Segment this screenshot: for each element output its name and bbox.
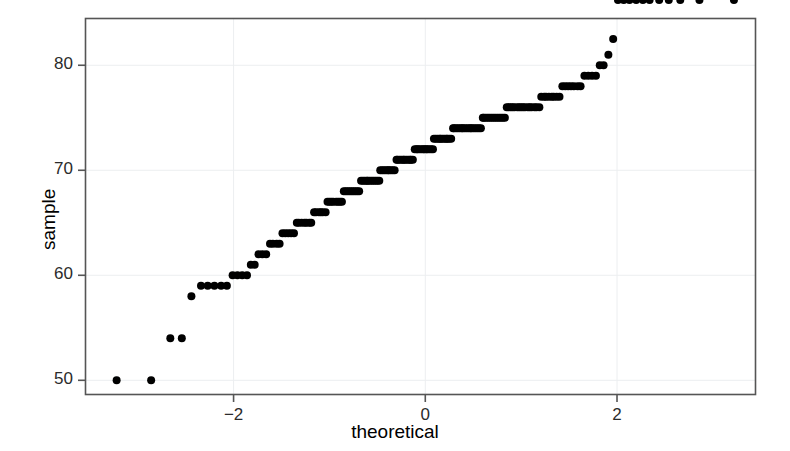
plot-canvas xyxy=(0,0,790,451)
data-point xyxy=(409,156,417,164)
data-point xyxy=(375,177,383,185)
data-point xyxy=(243,271,251,279)
data-point xyxy=(535,103,543,111)
data-point xyxy=(355,187,363,195)
data-point xyxy=(338,198,346,206)
axis-ticks xyxy=(78,65,617,402)
y-tick-label: 50 xyxy=(27,369,73,389)
data-point xyxy=(501,114,509,122)
x-tick-label: 0 xyxy=(395,405,455,425)
data-point xyxy=(187,292,195,300)
data-point xyxy=(251,261,259,269)
data-point xyxy=(555,93,563,101)
data-point xyxy=(676,0,684,4)
data-point xyxy=(276,240,284,248)
plot-border xyxy=(86,19,756,395)
data-point xyxy=(307,219,315,227)
data-point xyxy=(604,51,612,59)
data-point xyxy=(447,135,455,143)
data-point xyxy=(665,0,673,4)
data-point xyxy=(592,72,600,80)
data-point xyxy=(113,376,121,384)
data-point xyxy=(290,229,298,237)
y-tick-label: 70 xyxy=(27,159,73,179)
plot-frame xyxy=(86,19,756,395)
data-point xyxy=(646,0,654,4)
data-point xyxy=(429,145,437,153)
data-point xyxy=(730,0,738,4)
data-point xyxy=(477,124,485,132)
data-point xyxy=(655,0,663,4)
y-tick-label: 80 xyxy=(27,54,73,74)
data-point xyxy=(695,0,703,4)
data-point xyxy=(178,334,186,342)
data-point xyxy=(166,334,174,342)
data-point xyxy=(600,61,608,69)
data-point xyxy=(223,282,231,290)
data-point xyxy=(262,250,270,258)
data-point xyxy=(147,376,155,384)
y-tick-label: 60 xyxy=(27,264,73,284)
x-tick-label: −2 xyxy=(204,405,264,425)
data-point xyxy=(577,82,585,90)
qq-plot-figure: theoretical sample 50607080 −202 xyxy=(0,0,790,451)
x-tick-label: 2 xyxy=(587,405,647,425)
data-point xyxy=(391,166,399,174)
data-point xyxy=(322,208,330,216)
y-axis-title: sample xyxy=(38,189,60,250)
data-point xyxy=(609,35,617,43)
